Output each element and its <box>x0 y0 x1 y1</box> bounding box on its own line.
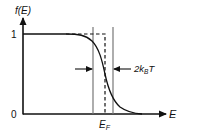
fermi-dirac-curve <box>23 34 142 114</box>
x-axis-label: E <box>169 108 177 120</box>
y-axis-label: f(E) <box>15 5 31 16</box>
fermi-level-label: EF <box>99 119 111 131</box>
tick-label-one: 1 <box>11 29 17 40</box>
fermi-dirac-diagram: f(E) 1 0 E EF 2kBT <box>0 0 200 134</box>
width-label-suffix: T <box>148 63 155 74</box>
fermi-level-label-sub: F <box>106 124 111 131</box>
width-label: 2kBT <box>133 63 155 75</box>
zero-temperature-step <box>66 34 105 114</box>
tick-label-zero: 0 <box>11 109 17 120</box>
